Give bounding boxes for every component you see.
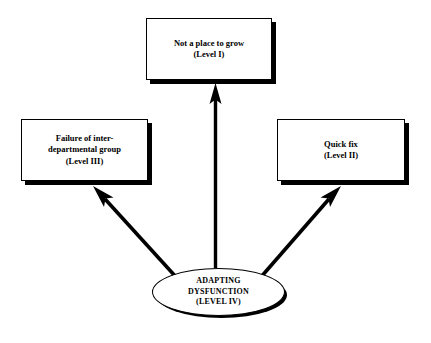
node-box-level-3-label: Failure of inter- departmental group (Le… <box>44 133 125 168</box>
node-box-level-1-label: Not a place to grow (Level I) <box>170 38 248 61</box>
node-box-level-2[interactable]: Quick fix (Level II) <box>277 119 405 181</box>
node-ellipse-level-4[interactable]: ADAPTING DYSFUNCTION (LEVEL IV) <box>152 268 285 316</box>
node-box-level-1[interactable]: Not a place to grow (Level I) <box>146 18 272 80</box>
node-ellipse-level-4-label: ADAPTING DYSFUNCTION (LEVEL IV) <box>188 276 249 308</box>
node-box-level-3[interactable]: Failure of inter- departmental group (Le… <box>21 119 148 181</box>
diagram-canvas: Not a place to grow (Level I) Failure of… <box>0 0 431 343</box>
node-box-level-2-label: Quick fix (Level II) <box>320 139 362 162</box>
arrow-center-to-top <box>210 83 222 268</box>
arrow-center-to-right <box>261 186 341 277</box>
arrow-center-to-left <box>93 186 176 277</box>
